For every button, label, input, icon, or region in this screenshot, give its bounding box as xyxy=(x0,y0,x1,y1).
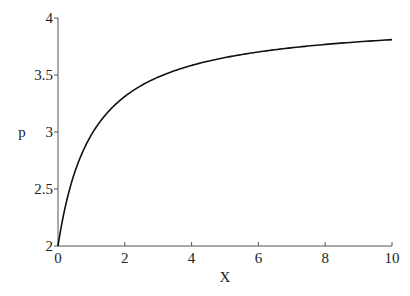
y-tick-label: 3.5 xyxy=(34,67,53,83)
y-tick-label: 4 xyxy=(46,10,54,26)
y-tick-label: 2.5 xyxy=(34,181,53,197)
y-ticks: 22.533.54 xyxy=(34,10,58,254)
axes xyxy=(58,18,392,246)
y-tick-label: 2 xyxy=(46,238,54,254)
x-tick-label: 0 xyxy=(54,250,62,266)
data-line xyxy=(58,40,392,246)
y-tick-label: 3 xyxy=(46,124,54,140)
chart: 0246810 22.533.54 X p xyxy=(0,0,410,296)
y-axis-label: p xyxy=(18,124,26,140)
x-tick-label: 6 xyxy=(255,250,263,266)
x-tick-label: 10 xyxy=(385,250,400,266)
x-tick-label: 2 xyxy=(121,250,129,266)
x-axis-label: X xyxy=(220,269,231,285)
x-tick-label: 8 xyxy=(321,250,329,266)
x-tick-label: 4 xyxy=(188,250,196,266)
